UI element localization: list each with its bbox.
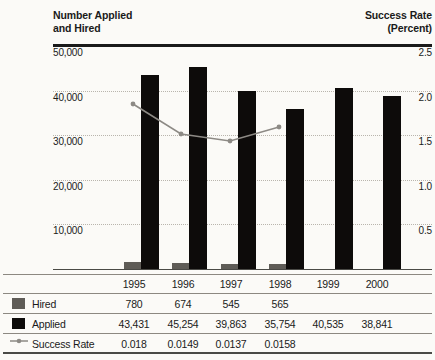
table-rule-hired bbox=[3, 313, 432, 314]
legend-swatch-applied bbox=[12, 318, 25, 329]
cell-applied-1997: 39,863 bbox=[207, 318, 255, 330]
left-axis-title-line1: Number Applied bbox=[53, 9, 132, 22]
marker-1996 bbox=[179, 132, 184, 137]
cell-success-1998: 0.0158 bbox=[256, 338, 304, 350]
marker-1995 bbox=[131, 102, 136, 107]
column-header-1998: 1998 bbox=[256, 278, 304, 290]
cell-success-1995: 0.018 bbox=[110, 338, 158, 350]
cell-applied-1999: 40,535 bbox=[304, 318, 352, 330]
plot-area: 50,000 40,000 30,000 20,000 10,000 2.5 2… bbox=[0, 46, 435, 274]
cell-success-1996: 0.0149 bbox=[159, 338, 207, 350]
cell-hired-1997: 545 bbox=[207, 298, 255, 310]
legend-swatch-hired bbox=[12, 298, 25, 309]
column-header-1996: 1996 bbox=[159, 278, 207, 290]
cell-applied-1995: 43,431 bbox=[110, 318, 158, 330]
table-rule-applied bbox=[3, 333, 432, 334]
marker-1997 bbox=[228, 139, 233, 144]
right-axis-title: Success Rate (Percent) bbox=[365, 9, 432, 34]
cell-hired-1998: 565 bbox=[256, 298, 304, 310]
chart-figure: Number Applied and Hired Success Rate (P… bbox=[0, 0, 435, 360]
cell-success-1997: 0.0137 bbox=[207, 338, 255, 350]
row-label-success-rate: Success Rate bbox=[32, 338, 94, 350]
table-rule-years bbox=[3, 293, 432, 294]
table-rule-bottom bbox=[3, 352, 432, 354]
cell-applied-1998: 35,754 bbox=[256, 318, 304, 330]
row-label-applied: Applied bbox=[32, 318, 66, 330]
legend-line-marker-icon bbox=[10, 336, 28, 346]
column-header-2000: 2000 bbox=[353, 278, 401, 290]
column-header-1999: 1999 bbox=[304, 278, 352, 290]
x-axis-baseline bbox=[53, 269, 432, 270]
right-axis-title-line1: Success Rate bbox=[365, 9, 432, 22]
marker-1998 bbox=[277, 125, 282, 130]
cell-applied-2000: 38,841 bbox=[353, 318, 401, 330]
left-axis-title: Number Applied and Hired bbox=[53, 9, 132, 34]
success-rate-line bbox=[0, 46, 435, 274]
cell-hired-1995: 780 bbox=[110, 298, 158, 310]
cell-applied-1996: 45,254 bbox=[159, 318, 207, 330]
right-axis-title-line2: (Percent) bbox=[365, 22, 432, 35]
cell-hired-1996: 674 bbox=[159, 298, 207, 310]
data-table: 1995 1996 1997 1998 1999 2000 Hired 780 … bbox=[0, 274, 435, 360]
left-axis-title-line2: and Hired bbox=[53, 22, 132, 35]
row-label-hired: Hired bbox=[32, 298, 56, 310]
chart-header: Number Applied and Hired Success Rate (P… bbox=[0, 0, 435, 46]
table-rule-top bbox=[3, 274, 432, 275]
column-header-1997: 1997 bbox=[207, 278, 255, 290]
column-header-1995: 1995 bbox=[110, 278, 158, 290]
